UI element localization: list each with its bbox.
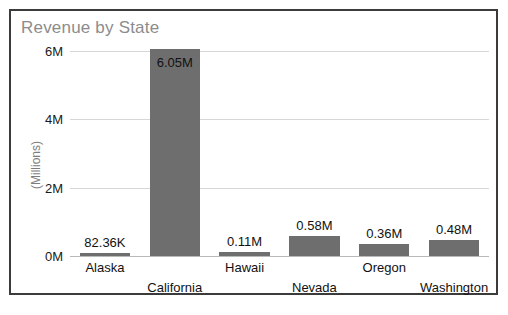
- bar-value-label: 0.36M: [366, 226, 402, 241]
- bar-washington[interactable]: [429, 240, 479, 256]
- x-axis-category-label: California: [147, 280, 202, 295]
- y-axis-tick-label: 6M: [45, 44, 63, 59]
- bar-value-label: 6.05M: [157, 55, 193, 70]
- bar-nevada[interactable]: [289, 236, 339, 256]
- y-axis-tick-label: 4M: [45, 112, 63, 127]
- chart-title: Revenue by State: [21, 18, 159, 38]
- gridline: [70, 188, 489, 189]
- plot-area: 0M2M4M6M82.36K6.05M0.11M0.58M0.36M0.48M: [70, 51, 489, 256]
- bar-value-label: 0.48M: [436, 222, 472, 237]
- x-axis-category-label: Alaska: [85, 260, 124, 275]
- y-axis-tick-label: 2M: [45, 180, 63, 195]
- x-axis-category-label: Oregon: [363, 260, 406, 275]
- bar-value-label: 82.36K: [84, 235, 125, 250]
- y-axis-title: (Millions): [29, 141, 43, 189]
- bar-oregon[interactable]: [359, 244, 409, 256]
- chart-container: Revenue by State (Millions) 0M2M4M6M82.3…: [9, 9, 498, 295]
- bar-alaska[interactable]: [80, 253, 130, 256]
- x-axis-category-label: Nevada: [292, 280, 337, 295]
- gridline: [70, 119, 489, 120]
- y-axis-tick-label: 0M: [45, 249, 63, 264]
- bar-hawaii[interactable]: [219, 252, 269, 256]
- bar-value-label: 0.58M: [296, 218, 332, 233]
- gridline: [70, 256, 489, 257]
- bar-value-label: 0.11M: [227, 234, 262, 249]
- x-axis-category-label: Washington: [420, 280, 488, 295]
- gridline: [70, 51, 489, 52]
- bar-california[interactable]: [150, 49, 200, 256]
- x-axis-category-label: Hawaii: [225, 260, 264, 275]
